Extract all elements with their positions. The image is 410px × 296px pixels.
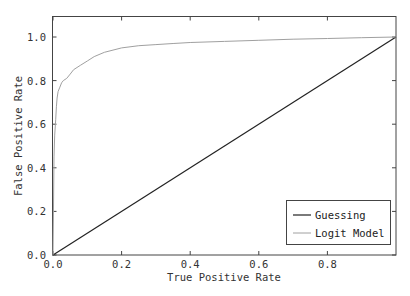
legend-label-guessing: Guessing (315, 209, 366, 221)
legend-label-logit-model: Logit Model (315, 227, 385, 239)
y-tick-label: 1.0 (27, 31, 46, 43)
legend: Guessing Logit Model (287, 201, 391, 245)
x-tick-label: 0.6 (249, 258, 268, 270)
roc-chart: 0.00.20.40.60.8 0.00.20.40.60.81.0 True … (0, 0, 410, 296)
y-axis-label: False Positive Rate (12, 76, 24, 196)
x-tick-label: 0.0 (44, 258, 63, 270)
y-tick-label: 0.6 (27, 118, 46, 130)
y-tick-label: 0.0 (27, 249, 46, 261)
y-tick-label: 0.2 (27, 205, 46, 217)
x-tick-label: 0.8 (318, 258, 337, 270)
x-tick-label: 0.2 (112, 258, 131, 270)
y-tick-label: 0.8 (27, 75, 46, 87)
x-tick-label: 0.4 (181, 258, 200, 270)
x-axis-label: True Positive Rate (167, 271, 281, 283)
y-tick-label: 0.4 (27, 162, 46, 174)
